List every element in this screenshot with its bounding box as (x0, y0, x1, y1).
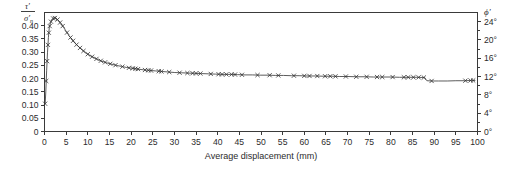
y-axis-title-denominator: σ′n (24, 14, 33, 24)
x-axis-tick-label: 10 (83, 137, 93, 147)
chart-figure: 0510152025303540455055606570758085909510… (0, 0, 523, 172)
x-axis-tick-label: 15 (105, 137, 115, 147)
data-point-marker (61, 24, 65, 28)
y-axis-tick-label: 0.10 (22, 100, 39, 110)
data-point-marker (86, 52, 90, 56)
plot-frame (45, 13, 478, 132)
data-point-marker (94, 57, 98, 61)
x-axis-tick-label: 50 (256, 137, 266, 147)
data-series-line (45, 18, 475, 104)
data-point-marker (99, 59, 103, 63)
y-axis-tick-label: 0.15 (22, 87, 39, 97)
y-axis-tick-label: 0.05 (22, 113, 39, 123)
x-axis-tick-label: 45 (235, 137, 245, 147)
y-axis-right-tick-label: 0° (484, 127, 492, 137)
x-axis-tick-label: 90 (429, 137, 439, 147)
x-axis-tick-label: 95 (451, 137, 461, 147)
data-point-marker (58, 20, 62, 24)
x-axis-tick-label: 80 (386, 137, 396, 147)
data-point-marker (81, 49, 85, 53)
data-point-marker (71, 39, 75, 43)
x-axis-tick-label: 85 (408, 137, 418, 147)
x-axis-tick-label: 5 (64, 137, 69, 147)
y-axis-right-tick-label: 8° (484, 90, 492, 100)
x-axis-tick-label: 65 (321, 137, 331, 147)
x-axis-tick-label: 70 (343, 137, 353, 147)
x-axis-title: Average displacement (mm) (205, 151, 317, 161)
x-axis-tick-label: 100 (470, 137, 485, 147)
y-axis-tick-label: 0.30 (22, 47, 39, 57)
line-chart: 0510152025303540455055606570758085909510… (0, 0, 523, 172)
y-axis-right-tick-label: 24° (484, 17, 497, 27)
x-axis-tick-label: 0 (42, 137, 47, 147)
data-point-marker (65, 30, 69, 34)
y-axis-tick-label: 0 (34, 127, 39, 137)
y-axis-title-denominator-subscript: n (30, 17, 33, 24)
x-axis-tick-label: 55 (278, 137, 288, 147)
data-point-marker (103, 60, 107, 64)
x-axis-tick-label: 30 (170, 137, 180, 147)
y-axis-title-numerator: τ′ (25, 2, 30, 11)
y-axis-tick-label: 0.35 (22, 34, 39, 44)
x-axis-tick-label: 75 (364, 137, 374, 147)
y-axis-right-tick-label: 12° (484, 72, 497, 82)
y-axis-tick-label: 0.25 (22, 60, 39, 70)
y-axis-right-tick-label: 20° (484, 35, 497, 45)
data-point-marker (90, 55, 94, 59)
y-axis-tick-label: 0.20 (22, 74, 39, 84)
x-axis-tick-label: 20 (126, 137, 136, 147)
x-axis-tick-label: 40 (213, 137, 223, 147)
y-axis-right-tick-label: 4° (484, 108, 492, 118)
data-point-marker (68, 35, 72, 39)
x-axis-tick-label: 35 (191, 137, 201, 147)
data-point-markers (43, 16, 475, 106)
x-axis-tick-label: 60 (300, 137, 310, 147)
y-axis-right-title: ϕ′ (484, 7, 492, 17)
y-axis-right-tick-label: 16° (484, 53, 497, 63)
x-axis-tick-label: 25 (148, 137, 158, 147)
